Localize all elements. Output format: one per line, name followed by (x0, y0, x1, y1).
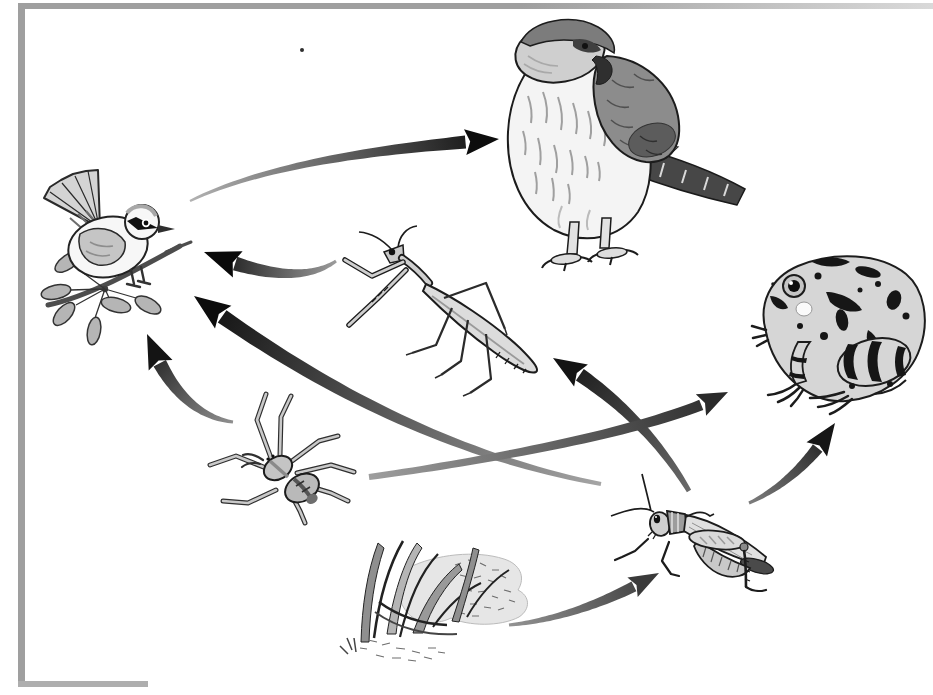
ink-speck (300, 48, 304, 52)
hawk-eye (582, 43, 588, 49)
frame-top-border (18, 3, 933, 9)
frame-bottom-border (18, 681, 148, 687)
mantis-eye (389, 249, 395, 255)
frame-left-border (18, 3, 25, 687)
frog-tympanum-spot (796, 302, 812, 316)
food-web-diagram (0, 0, 933, 695)
frog-eye (783, 275, 805, 297)
grasshopper-eye (654, 515, 660, 523)
scanned-figure-page (0, 0, 933, 695)
frog-nostril (771, 282, 775, 286)
